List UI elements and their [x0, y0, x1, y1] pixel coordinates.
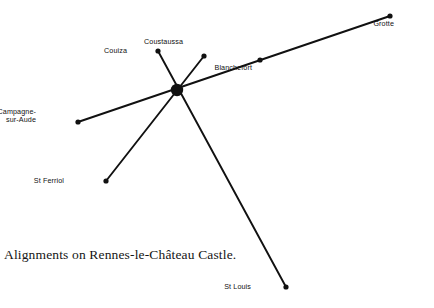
site-label-couiza: Couiza [104, 47, 127, 55]
castle-hub-marker [171, 84, 183, 96]
site-node-st-louis [283, 284, 288, 289]
site-label-coustaussa: Coustaussa [144, 38, 183, 46]
site-node-couiza [155, 48, 160, 53]
site-label-blanchefort: Blanchefort [215, 64, 252, 72]
site-node-blanchefort [257, 57, 262, 62]
site-label-st-ferriol: St Ferriol [34, 177, 64, 185]
alignment-line-coustaussa-stferriol [106, 56, 204, 181]
alignment-diagram-figure: GrotteBlanchefortCoustaussaCouizaCampagn… [0, 0, 434, 308]
site-label-st-louis: St Louis [224, 283, 251, 291]
site-node-campagne-sur-aude [75, 119, 80, 124]
castle-hub-node [171, 84, 183, 96]
site-label-campagne-sur-aude: Campagne- sur-Aude [0, 108, 36, 125]
site-node-coustaussa [201, 53, 206, 58]
site-label-grotte: Grotte [373, 20, 394, 28]
site-node-grotte [387, 13, 392, 18]
figure-caption: Alignments on Rennes-le-Château Castle. [4, 247, 236, 263]
site-node-st-ferriol [103, 178, 108, 183]
